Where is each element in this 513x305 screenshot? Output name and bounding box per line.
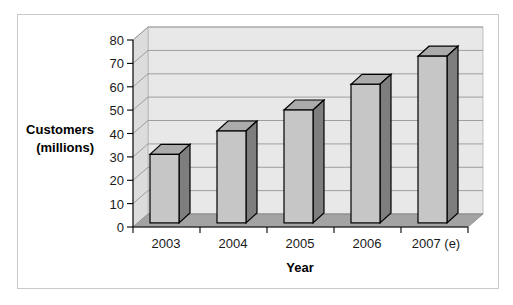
bar-front-face [150,154,179,223]
y-tick-80: 80 [110,33,124,48]
bar-2007e[interactable] [418,46,458,223]
bar-front-face [418,56,447,223]
y-axis-title-line1: Customers [26,122,94,137]
y-axis-title-line2: (millions) [36,140,94,155]
y-tick-40: 40 [110,127,124,142]
bar-front-face [351,84,380,223]
x-label-2003: 2003 [152,236,181,251]
bar-2005[interactable] [284,100,324,223]
bar-side-face [447,46,458,223]
x-axis-title: Year [286,260,313,275]
y-tick-0: 0 [117,220,124,235]
x-label-2006: 2006 [353,236,382,251]
bar-side-face [313,100,324,223]
x-category-labels: 2003 2004 2005 2006 2007 (e) [152,236,461,251]
y-tick-labels: 80 70 60 50 40 30 20 10 0 [110,33,124,235]
bar-front-face [284,110,313,223]
bar-chart-canvas: 80 70 60 50 40 30 20 10 0 2003 2004 2005… [0,0,513,305]
x-axis [133,227,468,233]
y-tick-60: 60 [110,80,124,95]
y-axis [127,40,133,227]
y-tick-30: 30 [110,150,124,165]
x-label-2004: 2004 [219,236,248,251]
bar-2004[interactable] [217,121,257,223]
y-tick-50: 50 [110,103,124,118]
chart-figure: 80 70 60 50 40 30 20 10 0 2003 2004 2005… [0,0,513,305]
x-label-2007e: 2007 (e) [412,236,460,251]
bar-2006[interactable] [351,74,391,223]
x-label-2005: 2005 [286,236,315,251]
bar-side-face [380,74,391,223]
bar-side-face [179,144,190,223]
y-tick-20: 20 [110,173,124,188]
bar-side-face [246,121,257,223]
y-tick-70: 70 [110,56,124,71]
bar-front-face [217,131,246,223]
bar-2003[interactable] [150,144,190,223]
y-tick-10: 10 [110,197,124,212]
